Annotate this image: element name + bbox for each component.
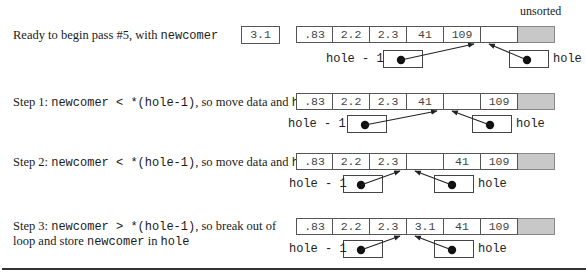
bottom-rule [2, 268, 586, 270]
newcomer-box: 3.1 [241, 26, 280, 44]
hole-arrow-icon [415, 171, 452, 185]
hole-minus-1-arrow-icon [365, 111, 437, 125]
hole-arrow-icon [452, 111, 490, 125]
hole-arrow-icon [489, 44, 527, 60]
hole-minus-1-arrow-icon [361, 171, 400, 185]
hole-arrow-icon [415, 236, 452, 250]
pointer-arrows [0, 0, 586, 274]
hole-minus-1-arrow-icon [401, 44, 474, 60]
hole-minus-1-arrow-icon [361, 236, 400, 250]
unsorted-label: unsorted [520, 4, 561, 19]
